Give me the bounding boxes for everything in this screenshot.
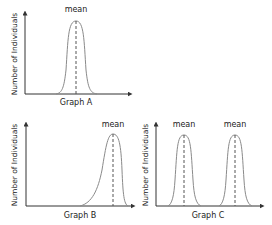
- graph-c-y-label: Number of Individuals: [141, 124, 150, 207]
- graph-a-title: Graph A: [60, 98, 93, 107]
- graph-a: mean Graph A Number of Individuals: [10, 5, 130, 107]
- graph-c-mean-label-left: mean: [173, 120, 196, 129]
- graph-b-mean-label: mean: [102, 120, 125, 129]
- graph-b-y-label: Number of Individuals: [10, 124, 19, 207]
- graph-c-mean-label-right: mean: [224, 120, 247, 129]
- graph-b: mean Graph B Number of Individuals: [10, 120, 133, 220]
- graph-c: mean mean Graph C Number of Individuals: [141, 120, 262, 220]
- graph-b-title: Graph B: [64, 211, 97, 220]
- graph-a-y-label: Number of Individuals: [10, 13, 19, 96]
- graph-b-curve: [80, 134, 128, 206]
- graph-a-mean-label: mean: [65, 5, 88, 14]
- graph-c-title: Graph C: [192, 211, 225, 220]
- diagram-canvas: mean Graph A Number of Individuals mean …: [0, 0, 272, 225]
